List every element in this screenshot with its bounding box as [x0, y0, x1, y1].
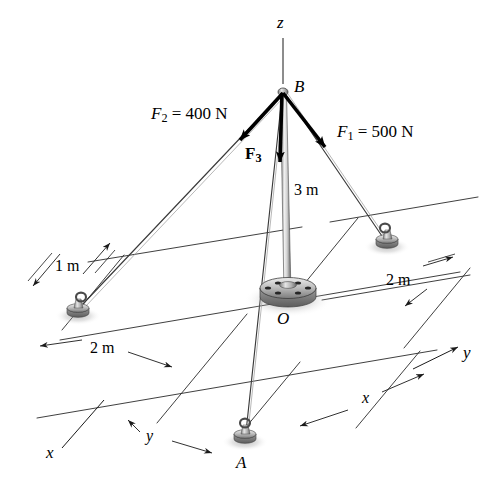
base-flange	[260, 278, 316, 308]
point-label-O: O	[277, 310, 289, 327]
force-vector-F1	[283, 93, 325, 147]
dim-label-right-2m: 2 m	[386, 272, 410, 288]
force-vector-F3	[280, 93, 282, 162]
force-label-F1: F1 = 500 N	[337, 123, 414, 143]
axis-label-y: y	[463, 344, 471, 361]
force-magnitude-F2: 400	[186, 104, 212, 123]
force-symbol-F3: F	[245, 144, 255, 163]
cables	[82, 94, 386, 432]
point-label-A: A	[236, 454, 246, 471]
force-symbol-F1: F	[337, 122, 347, 141]
diagram-canvas	[0, 0, 502, 494]
x-axis-line	[62, 400, 104, 448]
anchor-right	[364, 224, 410, 256]
dim-y-bottom	[128, 420, 212, 453]
dim-label-bottom-x: x	[362, 390, 369, 406]
force-magnitude-F1: 500	[372, 122, 398, 141]
force-label-F2: F2 = 400 N	[151, 105, 228, 125]
dim-label-left-2m: 2 m	[90, 340, 114, 356]
dim-label-bottom-y: y	[146, 428, 153, 444]
force-unit-text-F2: N	[215, 104, 227, 123]
anchor-A	[222, 419, 268, 451]
force-vector-F2	[240, 93, 283, 140]
point-label-B: B	[294, 78, 304, 95]
force-subscript-F3: 3	[255, 151, 261, 165]
axis-label-z: z	[277, 14, 284, 31]
dim-label-left-1m: 1 m	[55, 258, 79, 274]
dim-label-pole-height: 3 m	[294, 182, 318, 198]
force-equals-F1: =	[354, 122, 372, 141]
force-symbol-F2: F	[151, 104, 161, 123]
ground-plane-grid	[37, 197, 478, 438]
force-label-F3: F3	[245, 145, 262, 165]
force-equals-F2: =	[168, 104, 186, 123]
force-unit-text-F1: N	[401, 122, 413, 141]
axis-label-x: x	[46, 444, 54, 461]
statics-diagram: z y x B O A F1 = 500 N F2 = 400 N F3 3 m…	[0, 0, 502, 494]
